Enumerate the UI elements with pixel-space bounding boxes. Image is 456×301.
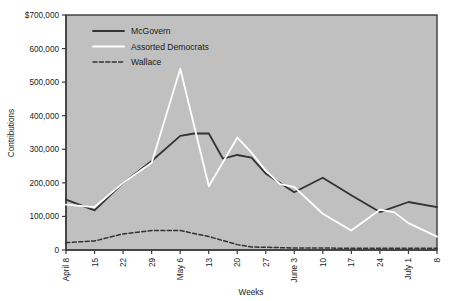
x-tick-label: 15	[91, 258, 100, 268]
x-tick-label: April 8	[62, 258, 71, 282]
legend-label-assorted-democrats: Assorted Democrats	[131, 42, 209, 52]
x-tick-label: 10	[319, 258, 328, 268]
plot-area-background	[66, 15, 437, 250]
y-tick-label: 200,000	[29, 179, 59, 188]
y-tick-label: 300,000	[29, 145, 59, 154]
x-tick-label: May 6	[176, 258, 185, 281]
y-tick-label: 0	[54, 246, 59, 255]
y-axis-tick-labels: 0100,000200,000300,000400,000500,000600,…	[25, 11, 60, 255]
contributions-line-chart: 0100,000200,000300,000400,000500,000600,…	[0, 0, 456, 301]
x-tick-label: 29	[148, 258, 157, 268]
y-tick-label: 600,000	[29, 45, 59, 54]
x-tick-label: July 1	[404, 258, 413, 280]
y-tick-label: 400,000	[29, 112, 59, 121]
x-axis-tick-labels: April 8152229May 6132027June 3101724July…	[62, 258, 442, 283]
x-tick-label: 8	[433, 258, 442, 263]
x-axis-title: Weeks	[239, 288, 264, 297]
y-axis-title: Contributions	[7, 109, 16, 157]
legend-label-wallace: Wallace	[131, 57, 161, 67]
chart-canvas: 0100,000200,000300,000400,000500,000600,…	[0, 0, 456, 301]
y-tick-label: 500,000	[29, 78, 59, 87]
y-tick-label: $700,000	[25, 11, 60, 20]
x-tick-label: 17	[347, 258, 356, 268]
x-tick-label: 13	[205, 258, 214, 268]
x-tick-label: June 3	[290, 258, 299, 283]
legend-label-mcgovern: McGovern	[131, 26, 171, 36]
x-tick-label: 20	[233, 258, 242, 268]
x-tick-label: 22	[119, 258, 128, 268]
y-tick-label: 100,000	[29, 212, 59, 221]
x-tick-label: 24	[376, 258, 385, 268]
x-tick-label: 27	[262, 258, 271, 268]
